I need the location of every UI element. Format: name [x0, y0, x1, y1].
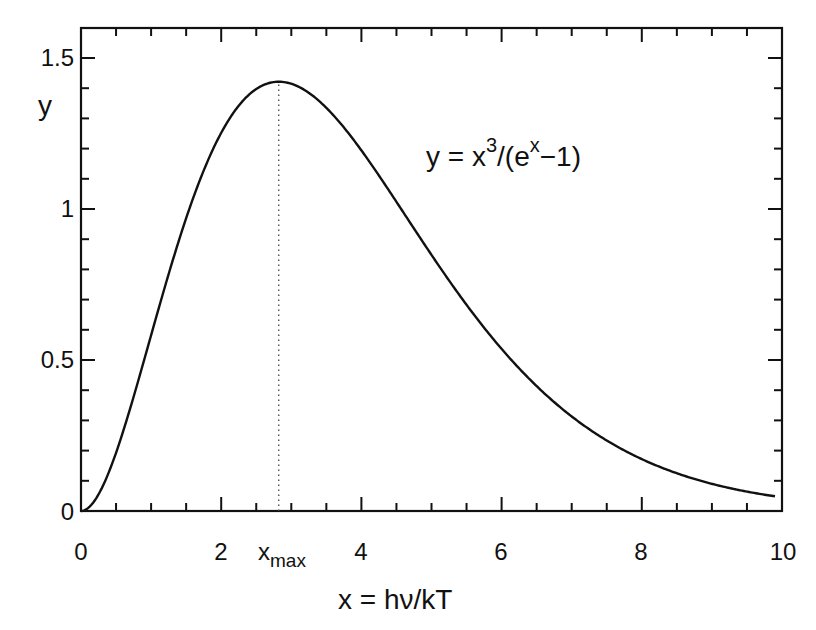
x-tick-label-4: 4: [354, 540, 367, 564]
axis-ticks: [81, 28, 782, 511]
x-tick-label-8: 8: [634, 540, 647, 564]
y-tick-label-1: 1: [14, 197, 74, 221]
y-axis-label: y: [38, 92, 52, 120]
xmax-base: x: [258, 538, 270, 565]
formula-annotation: y = x3/(ex−1): [426, 138, 581, 173]
formula-exponent-x: x: [530, 134, 540, 156]
x-tick-label-10: 10: [770, 540, 797, 564]
x-tick-label-0: 0: [74, 540, 87, 564]
formula-part: y = x: [426, 141, 486, 172]
xmax-label: xmax: [258, 540, 306, 570]
formula-exponent-3: 3: [486, 134, 497, 156]
y-tick-label-0: 0: [14, 500, 74, 524]
x-tick-label-6: 6: [494, 540, 507, 564]
y-tick-label-1.5: 1.5: [14, 46, 74, 70]
x-axis-label: x = hν/kT: [338, 584, 452, 616]
y-tick-label-0.5: 0.5: [14, 348, 74, 372]
formula-part: −1): [540, 141, 581, 172]
x-tick-label-2: 2: [214, 540, 227, 564]
formula-part: /(e: [497, 141, 530, 172]
plot-area: [0, 0, 816, 630]
xmax-subscript: max: [270, 550, 306, 571]
plot-frame: [81, 28, 782, 511]
